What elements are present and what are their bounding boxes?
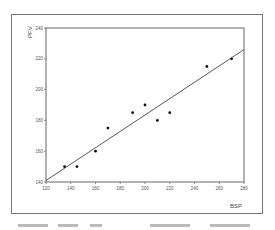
x-tick-label: 220 — [166, 186, 174, 191]
cutoff-text — [90, 224, 102, 227]
cutoff-text — [58, 224, 78, 227]
y-tick-label: 140 — [35, 180, 43, 185]
data-point — [230, 57, 233, 60]
cutoff-text — [18, 224, 48, 227]
data-point — [63, 165, 66, 168]
y-tick-label: 160 — [35, 149, 43, 154]
y-tick-label: 240 — [35, 26, 43, 31]
data-point — [156, 119, 159, 122]
regression-line — [46, 50, 244, 181]
plot-area: 1201401601802002202402602801401601802002… — [35, 26, 248, 191]
x-tick-label: 140 — [67, 186, 75, 191]
y-tick-label: 180 — [35, 118, 43, 123]
x-tick-label: 180 — [116, 186, 124, 191]
data-point — [94, 150, 97, 153]
data-point — [205, 65, 208, 68]
x-tick-label: 200 — [141, 186, 149, 191]
x-tick-label: 260 — [215, 186, 223, 191]
data-point — [144, 104, 147, 107]
y-axis-label: PFV — [27, 26, 33, 38]
cutoff-text — [210, 224, 250, 227]
data-point — [131, 111, 134, 114]
x-tick-label: 280 — [240, 186, 248, 191]
scatter-chart: 1201401601802002202402602801401601802002… — [0, 0, 275, 230]
cutoff-text — [150, 224, 190, 227]
y-tick-label: 220 — [35, 56, 43, 61]
data-point — [76, 165, 79, 168]
data-point — [168, 111, 171, 114]
data-point — [106, 127, 109, 130]
x-tick-label: 240 — [191, 186, 199, 191]
x-axis-label: BSP — [230, 203, 242, 209]
x-tick-label: 120 — [42, 186, 50, 191]
y-tick-label: 200 — [35, 87, 43, 92]
x-tick-label: 160 — [92, 186, 100, 191]
